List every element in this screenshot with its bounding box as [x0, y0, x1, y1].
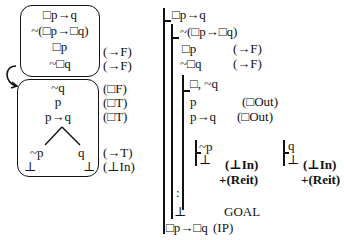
case2-bottom: ⊥	[287, 153, 299, 167]
proof-line: □p→q	[172, 8, 206, 22]
case1-bottom: ⊥	[199, 153, 211, 167]
proof-rule: (→F)	[233, 42, 262, 56]
proof-line: ~(□p→□q)	[180, 25, 237, 39]
tree-line: p	[17, 95, 99, 109]
branch-left-line: ~p	[30, 146, 44, 160]
tree-line: □p	[20, 40, 100, 54]
tree-rule: (□F)	[103, 82, 127, 96]
proof-bottom: ⊥	[174, 205, 186, 219]
proof-line: □p	[182, 42, 196, 56]
branch-left-bottom: ⊥	[24, 160, 36, 174]
branch-right-line: q	[78, 146, 85, 160]
proof-subproof-bar	[171, 24, 173, 219]
proof-outer-tick	[163, 20, 171, 22]
proof-outer-bar	[163, 8, 165, 234]
proof-rule: (□Out)	[237, 110, 273, 124]
tree-line: p→q	[17, 110, 99, 124]
proof-box-bar	[182, 75, 184, 210]
tree-rule: (□T)	[103, 110, 127, 124]
case2-rule: +(Reit)	[301, 173, 340, 187]
proof-line: □, ~q	[190, 77, 218, 91]
case1-rule: (⊥In)	[225, 158, 258, 172]
proof-box-tick	[182, 90, 190, 92]
proof-goal: GOAL	[224, 205, 260, 219]
tree-line: ~(□p→□q)	[20, 24, 100, 38]
case1-rule: +(Reit)	[219, 173, 258, 187]
proof-conclusion: □p→□q	[166, 221, 208, 235]
branch-right-bottom: ⊥	[83, 160, 95, 174]
branch-lines	[40, 125, 90, 147]
case2-assume: q	[288, 139, 295, 153]
proof-line: p	[190, 95, 197, 109]
tree-rule: (⊥In)	[103, 160, 135, 174]
proof-rule: (→F)	[233, 57, 262, 71]
tree-rule: (→T)	[103, 146, 133, 160]
case2-rule: (⊥In)	[303, 158, 336, 172]
tree-rule: (□T)	[103, 96, 127, 110]
tree-rule: (→F)	[103, 45, 132, 59]
proof-conclusion-rule: (IP)	[213, 221, 233, 235]
proof-ellipsis: :	[176, 186, 180, 200]
proof-subproof-tick	[171, 37, 179, 39]
tree-rule: (→F)	[103, 59, 132, 73]
tree-line: ~q	[17, 81, 99, 95]
proof-rule: (□Out)	[242, 95, 278, 109]
tree-line: ~□q	[20, 57, 100, 71]
proof-line: p→q	[190, 110, 216, 124]
tree-line: □p→q	[20, 8, 100, 22]
proof-line: ~□q	[180, 57, 201, 71]
